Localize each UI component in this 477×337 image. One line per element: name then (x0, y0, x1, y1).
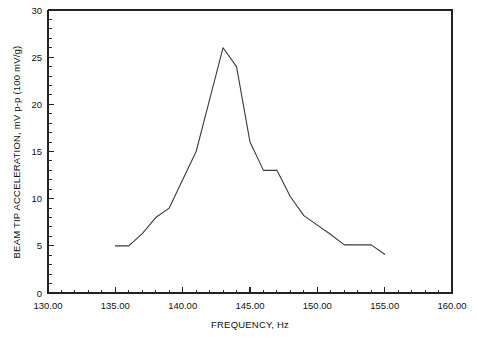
x-tick-label: 150.00 (303, 300, 332, 311)
chart-figure: 130.00135.00140.00145.00150.00155.00160.… (0, 0, 477, 337)
chart-background (0, 0, 477, 337)
x-axis-title: FREQUENCY, Hz (211, 319, 289, 330)
y-tick-label: 10 (31, 193, 42, 204)
x-tick-label: 145.00 (235, 300, 264, 311)
line-chart: 130.00135.00140.00145.00150.00155.00160.… (0, 0, 477, 337)
y-tick-label: 30 (31, 5, 42, 16)
y-tick-label: 0 (37, 288, 42, 299)
x-tick-label: 135.00 (101, 300, 130, 311)
x-tick-label: 160.00 (437, 300, 466, 311)
y-tick-label: 5 (37, 240, 42, 251)
y-tick-label: 15 (31, 146, 42, 157)
x-tick-label: 155.00 (370, 300, 399, 311)
x-tick-label: 130.00 (33, 300, 62, 311)
y-tick-label: 20 (31, 99, 42, 110)
y-axis-title: BEAM TIP ACCELERATION, mV p-p (100 mV/g) (11, 46, 22, 259)
y-tick-label: 25 (31, 52, 42, 63)
x-tick-label: 140.00 (168, 300, 197, 311)
